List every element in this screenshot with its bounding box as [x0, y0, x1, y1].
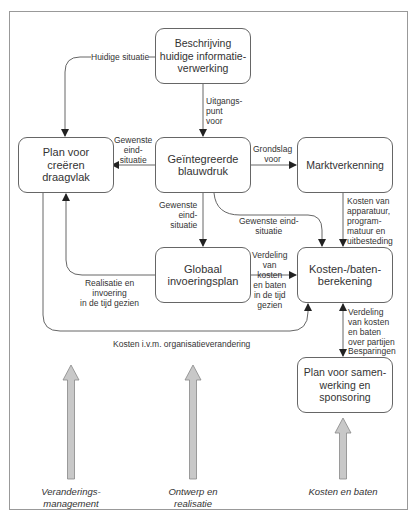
pillar-label-kosten-en-baten: Kosten en baten	[295, 486, 391, 498]
label-verdeling-tijd: Verdeling van kosten en baten in de tijd…	[252, 250, 287, 310]
label-uitgangspunt-voor: Uitgangs- punt voor	[206, 96, 242, 126]
box-kosten-baten-berekening: Kosten-/baten- berekening	[297, 247, 393, 303]
label-gewenste-eindsituatie-2: Gewenste eind- situatie	[159, 200, 197, 230]
box-plan-samenwerking-sponsoring: Plan voor samen- werking en sponsoring	[297, 357, 393, 413]
label-realisatie-invoering: Realisatie en invoering in de tijd gezie…	[80, 278, 139, 308]
pillar-arrow-ontwerp	[185, 365, 201, 479]
label-kosten-organisatieverandering: Kosten i.v.m. organisatieverandering	[113, 339, 250, 349]
label-gewenste-eindsituatie-1: Gewenste eind- situatie	[114, 135, 152, 165]
box-marktverkenning: Marktverkenning	[297, 137, 393, 193]
label-huidige-situatie: Huidige situatie	[91, 52, 149, 62]
label-kosten-apparatuur: Kosten van apparatuur, program- matuur e…	[347, 196, 393, 246]
pillar-arrow-kosten-baten	[335, 418, 351, 479]
label-besparingen: Besparingen	[348, 346, 396, 356]
label-gewenste-eindsituatie-3: Gewenste eind- situatie	[239, 216, 299, 236]
box-plan-creeren-draagvlak: Plan voor creëren draagvlak	[18, 137, 114, 193]
pillar-arrow-veranderingsmanagement	[63, 365, 79, 479]
label-grondslag-voor: Grondslag voor	[253, 144, 292, 164]
box-geintegreerde-blauwdruk: Geïntegreerde blauwdruk	[155, 137, 251, 193]
box-beschrijving-huidige-informatieverwerking: Beschrijving huidige informatie- verwerk…	[155, 28, 251, 84]
pillar-label-ontwerp-realisatie: Ontwerp en realisatie	[160, 486, 226, 509]
box-globaal-invoeringsplan: Globaal invoeringsplan	[155, 247, 251, 303]
pillar-label-veranderingsmanagement: Veranderings- management	[30, 486, 112, 509]
label-verdeling-partijen: Verdeling van kosten en baten over parti…	[348, 307, 395, 347]
